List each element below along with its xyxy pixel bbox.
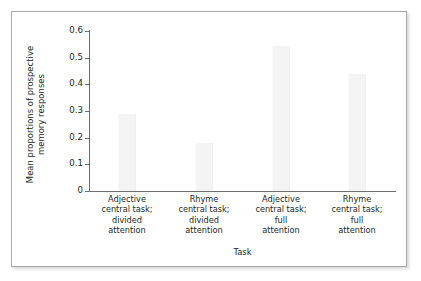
cat3-line0: Rhyme bbox=[311, 194, 403, 204]
figure-root: Mean proportions of prospective memory r… bbox=[0, 0, 421, 281]
x-axis-title: Task bbox=[89, 247, 396, 258]
y-tick-label: 0.3 bbox=[69, 105, 83, 116]
x-category-label-3: Rhyme central task; full attention bbox=[311, 194, 403, 236]
cat3-line1: central task; bbox=[311, 204, 403, 214]
bar-rhyme-divided bbox=[195, 143, 213, 191]
y-tick-label: 0.6 bbox=[69, 25, 83, 36]
y-tick-label: 0.4 bbox=[69, 78, 83, 89]
bar-adjective-full bbox=[272, 46, 290, 191]
y-tick-mark bbox=[85, 58, 89, 59]
y-tick-mark bbox=[85, 138, 89, 139]
cat3-line3: attention bbox=[311, 225, 403, 235]
x-axis-category-labels: Adjective central task; divided attentio… bbox=[89, 194, 396, 246]
y-tick-mark bbox=[85, 31, 89, 32]
y-tick-mark bbox=[85, 84, 89, 85]
bar-adjective-divided bbox=[118, 114, 136, 191]
figure-frame: Mean proportions of prospective memory r… bbox=[11, 11, 407, 267]
y-axis-title: Mean proportions of prospective memory r… bbox=[25, 29, 46, 201]
y-tick-label: 0.5 bbox=[69, 52, 83, 63]
y-tick-label: 0.2 bbox=[69, 132, 83, 143]
y-tick-mark bbox=[85, 111, 89, 112]
cat3-line2: full bbox=[311, 215, 403, 225]
y-tick-label: 0.1 bbox=[69, 158, 83, 169]
y-tick-mark bbox=[85, 191, 89, 192]
y-axis-title-line-1: Mean proportions of prospective bbox=[25, 29, 36, 201]
y-axis-title-line-2: memory responses bbox=[35, 29, 46, 201]
y-axis-line bbox=[89, 30, 90, 192]
x-axis-line bbox=[89, 191, 396, 192]
bar-rhyme-full bbox=[348, 74, 366, 191]
y-tick-mark bbox=[85, 164, 89, 165]
plot-area: 0.6 0.5 0.4 0.3 0.2 0.1 bbox=[89, 31, 396, 191]
